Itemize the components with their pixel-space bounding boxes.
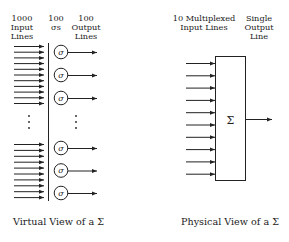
physical-input-arrows [186, 64, 215, 175]
sigma-unit: σ [54, 164, 97, 178]
caption-virtual-view: Virtual View of a Σ [13, 216, 104, 227]
diagram-svg: σσσσσσ Σ [0, 0, 289, 242]
virtual-input-arrows-bottom [14, 145, 44, 198]
sigma-label: σ [58, 166, 64, 175]
sigma-label: σ [58, 48, 64, 57]
ellipsis-outputs-icon [75, 115, 77, 129]
virtual-input-arrows-top [14, 47, 44, 104]
caption-physical-view: Physical View of a Σ [181, 216, 279, 227]
sigma-unit: σ [54, 91, 97, 105]
sigma-box-symbol: Σ [227, 114, 235, 127]
sigma-unit: σ [54, 68, 97, 82]
sigma-unit: σ [54, 186, 97, 200]
sigma-unit: σ [54, 141, 97, 155]
sigma-label: σ [58, 71, 64, 80]
sigma-unit: σ [54, 45, 97, 59]
diagram-canvas: 1000 Input Lines 100 σs 100 Output Lines… [0, 0, 289, 242]
ellipsis-inputs-icon [28, 115, 30, 129]
sigma-label: σ [58, 94, 64, 103]
sigma-label: σ [58, 189, 64, 198]
sigma-label: σ [58, 144, 64, 153]
